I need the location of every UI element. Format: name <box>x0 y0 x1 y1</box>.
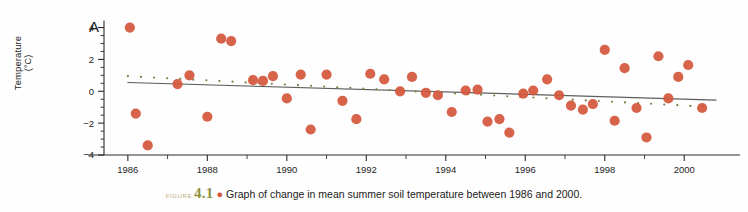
data-point <box>653 51 663 61</box>
data-points-layer <box>125 22 707 150</box>
data-point <box>379 74 389 84</box>
figure-4-1: 420−2−419861988199019921994199619982000 … <box>0 0 748 212</box>
data-point <box>528 85 538 95</box>
x-axis-tick-label: 1996 <box>515 164 536 175</box>
y-axis-tick-label: 2 <box>89 54 94 65</box>
data-point <box>258 76 268 86</box>
caption-figure-number: 4.1 <box>194 185 213 201</box>
y-axis-tick-label: 0 <box>89 86 94 97</box>
data-point <box>296 69 306 79</box>
x-axis-tick-label: 1990 <box>276 164 297 175</box>
data-point <box>172 79 182 89</box>
data-point <box>125 22 135 32</box>
y-axis-tick-label: −2 <box>83 118 94 129</box>
data-point <box>184 70 194 80</box>
plot-canvas: 420−2−419861988199019921994199619982000 <box>0 0 748 178</box>
data-point <box>663 93 673 103</box>
y-axis-title-main: Temperature <box>12 36 23 90</box>
x-axis-tick-label: 1992 <box>356 164 377 175</box>
data-point <box>447 107 457 117</box>
data-point <box>282 93 292 103</box>
data-point <box>321 69 331 79</box>
y-axis-title-unit: (°C) <box>23 8 34 118</box>
data-point <box>641 132 651 142</box>
data-point <box>421 88 431 98</box>
data-point <box>673 72 683 82</box>
data-point <box>554 90 564 100</box>
data-point <box>395 86 405 96</box>
data-point <box>433 90 443 100</box>
data-point <box>268 71 278 81</box>
x-axis-tick-label: 2000 <box>674 164 695 175</box>
caption-text: Graph of change in mean summer soil temp… <box>226 188 582 200</box>
data-point <box>248 75 258 85</box>
data-point <box>337 96 347 106</box>
data-point <box>494 114 504 124</box>
data-point <box>482 116 492 126</box>
data-point <box>216 34 226 44</box>
data-point <box>143 140 153 150</box>
data-point <box>306 124 316 134</box>
data-point <box>351 114 361 124</box>
data-point <box>610 116 620 126</box>
data-point <box>620 63 630 73</box>
data-point <box>631 103 641 113</box>
data-point <box>226 36 236 46</box>
caption-figure-word: Figure <box>166 191 192 200</box>
data-point <box>472 85 482 95</box>
data-point <box>683 60 693 70</box>
data-point <box>407 72 417 82</box>
data-point <box>461 85 471 95</box>
data-point <box>518 89 528 99</box>
data-point <box>588 99 598 109</box>
x-axis-tick-label: 1998 <box>594 164 615 175</box>
data-point <box>578 104 588 114</box>
scatter-plot: 420−2−419861988199019921994199619982000 … <box>0 0 748 178</box>
x-axis-tick-label: 1988 <box>197 164 218 175</box>
y-axis-tick-label: −4 <box>83 149 94 160</box>
caption-bullet-icon: ● <box>216 188 223 200</box>
data-point <box>365 69 375 79</box>
data-point <box>697 103 707 113</box>
x-axis-tick-label: 1994 <box>435 164 456 175</box>
data-point <box>542 74 552 84</box>
axis-labels-layer: 420−2−419861988199019921994199619982000 <box>83 22 695 175</box>
data-point <box>504 128 514 138</box>
data-point <box>600 45 610 55</box>
data-point <box>202 112 212 122</box>
panel-label-a: A <box>89 18 99 35</box>
data-point <box>131 108 141 118</box>
figure-caption: Figure4.1●Graph of change in mean summer… <box>0 185 748 202</box>
data-point <box>566 101 576 111</box>
y-axis-title: Temperature (°C) <box>12 8 34 118</box>
x-axis-tick-label: 1986 <box>117 164 138 175</box>
